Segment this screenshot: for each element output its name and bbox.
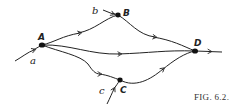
- node-label-c: C: [120, 85, 127, 95]
- edge-a-c: [42, 45, 120, 80]
- node-label-a: A: [37, 32, 45, 42]
- edge-b-d: [118, 15, 195, 51]
- output-edge: [195, 51, 222, 52]
- edge-a-b: [42, 15, 118, 45]
- input-edge-a: [15, 45, 42, 61]
- node-label-b: B: [123, 8, 130, 18]
- input-label-b: b: [92, 5, 98, 16]
- node-c: [117, 78, 122, 83]
- figure-caption: FIG. 6.2.: [194, 92, 229, 102]
- node-a: [39, 42, 45, 47]
- node-label-d: D: [194, 38, 202, 48]
- input-edge-c: [107, 80, 120, 104]
- input-label-c: c: [99, 85, 105, 96]
- node-b: [115, 13, 120, 18]
- edge-c-d: [120, 51, 195, 83]
- input-label-a: a: [30, 55, 36, 66]
- node-d: [192, 48, 198, 53]
